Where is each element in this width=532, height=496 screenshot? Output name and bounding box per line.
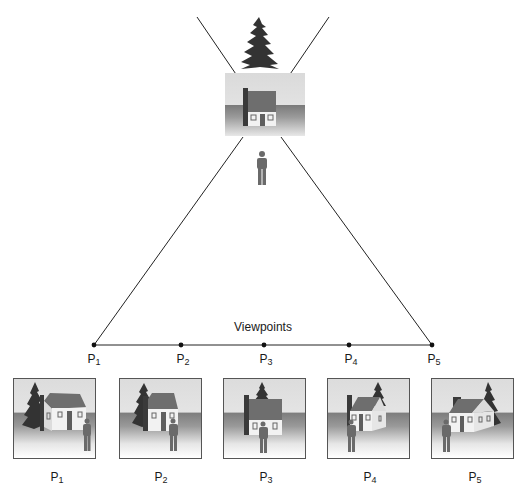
frame-label-p3: P3 bbox=[259, 471, 272, 483]
top-view-scene bbox=[225, 73, 305, 136]
baseline-label-p2: P2 bbox=[176, 353, 189, 365]
baseline-label-p5: P5 bbox=[427, 353, 440, 365]
tree-icon bbox=[254, 382, 270, 401]
frame-label-p1: P1 bbox=[50, 471, 63, 483]
viewpoints-diagram: Viewpoints P1 P2 P3 P4 P5 bbox=[0, 0, 532, 496]
tree-icon bbox=[241, 17, 279, 69]
view-frame-p1 bbox=[13, 378, 96, 459]
view-frame-p4 bbox=[327, 378, 410, 459]
frame-label-p2: P2 bbox=[154, 471, 167, 483]
frame-label-p5: P5 bbox=[468, 471, 481, 483]
baseline-label-p4: P4 bbox=[344, 353, 357, 365]
baseline-label-p3: P3 bbox=[259, 353, 272, 365]
baseline-label-p1: P1 bbox=[87, 353, 100, 365]
view-frame-p5 bbox=[431, 378, 514, 459]
view-frame-p2 bbox=[119, 378, 202, 459]
person-icon bbox=[257, 151, 267, 185]
view-frame-p3 bbox=[223, 378, 306, 459]
frame-label-p4: P4 bbox=[363, 471, 376, 483]
viewpoints-title: Viewpoints bbox=[234, 320, 292, 334]
